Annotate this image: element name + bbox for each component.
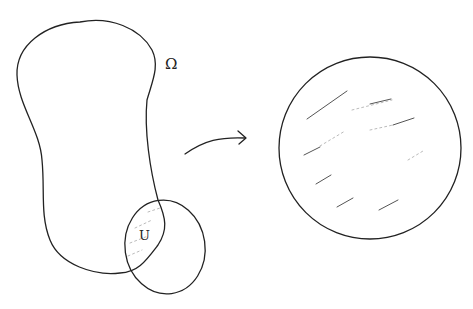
map-arrow-icon [185, 131, 246, 154]
target-disk-hatching [304, 91, 423, 210]
target-disk [279, 57, 461, 239]
u-label: U [139, 228, 150, 243]
diagram-canvas: Ω U [0, 0, 473, 309]
omega-label: Ω [165, 55, 177, 73]
small-disk [119, 195, 211, 299]
